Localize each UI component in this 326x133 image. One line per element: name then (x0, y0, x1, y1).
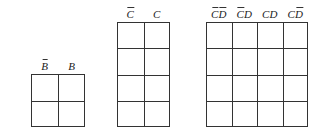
column-label: CD (262, 8, 277, 20)
kmap-cell (207, 49, 233, 75)
kmap-cell (59, 102, 86, 129)
kmap-cell (59, 75, 86, 102)
kmap-cell (145, 49, 172, 75)
kmap-cell (118, 76, 145, 102)
kmap-cell (284, 23, 310, 49)
column-label: B (41, 60, 48, 72)
kmap-cell (118, 49, 145, 75)
kmap-cell (284, 102, 310, 128)
column-label: C (127, 8, 134, 20)
column-label: B (68, 60, 75, 72)
kmap-cell (207, 23, 233, 49)
kmap-cell (233, 49, 259, 75)
kmap-cell (284, 76, 310, 102)
column-label: CD (237, 8, 252, 20)
kmap-cell (233, 76, 259, 102)
kmap-cell (233, 102, 259, 128)
kmap-cell (258, 76, 284, 102)
kmap-grid (117, 22, 170, 127)
kmap-grid (31, 74, 85, 127)
kmap-cell (284, 49, 310, 75)
kmap-grid (206, 22, 308, 127)
kmap-cell (145, 76, 172, 102)
kmap-cell (233, 23, 259, 49)
kmap-cell (258, 23, 284, 49)
kmap-cell (145, 102, 172, 128)
kmap-cell (207, 76, 233, 102)
kmap-cell (258, 49, 284, 75)
kmap-cell (118, 23, 145, 49)
kmap-cell (258, 102, 284, 128)
column-label: CD (211, 8, 226, 20)
column-label: CD (288, 8, 303, 20)
kmap-cell (32, 75, 59, 102)
kmap-cell (145, 23, 172, 49)
kmap-cell (32, 102, 59, 129)
kmap-cell (118, 102, 145, 128)
kmap-cell (207, 102, 233, 128)
column-label: C (153, 8, 160, 20)
